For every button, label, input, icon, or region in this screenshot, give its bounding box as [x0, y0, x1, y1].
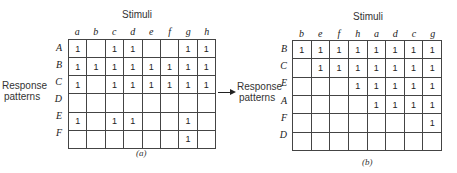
matrix-cell — [142, 130, 160, 148]
matrix-cell — [386, 132, 405, 150]
matrix-cell — [311, 114, 330, 132]
matrix-cell: 1 — [69, 40, 87, 58]
matrix-cell — [87, 40, 105, 58]
column-header-c: c — [405, 28, 423, 39]
matrix-cell — [330, 114, 349, 132]
column-header-a: a — [68, 26, 86, 37]
matrix-cell: 1 — [293, 41, 312, 59]
matrix-cell: 1 — [311, 59, 330, 77]
matrix-cell — [160, 112, 178, 130]
column-header-b: b — [292, 28, 310, 39]
matrix-cell — [348, 95, 367, 113]
matrix-cell — [386, 114, 405, 132]
column-header-f: f — [330, 28, 348, 39]
matrix-cell: 1 — [105, 76, 123, 94]
row-header-B: B — [52, 59, 62, 70]
matrix-cell: 1 — [105, 112, 123, 130]
matrix-cell: 1 — [386, 41, 405, 59]
column-header-e: e — [311, 28, 329, 39]
matrix-cell: 1 — [330, 59, 349, 77]
matrix-cell: 1 — [348, 59, 367, 77]
matrix-cell — [69, 130, 87, 148]
row-header-E: E — [52, 110, 62, 121]
caption-b: (b) — [362, 157, 373, 167]
matrix-cell: 1 — [367, 95, 386, 113]
matrix-cell: 1 — [124, 40, 142, 58]
matrix-cell: 1 — [386, 77, 405, 95]
matrix-cell: 1 — [142, 76, 160, 94]
matrix-cell — [330, 95, 349, 113]
matrix-cell: 1 — [423, 114, 442, 132]
matrix-cell: 1 — [404, 77, 423, 95]
matrix-cell: 1 — [348, 41, 367, 59]
matrix-cell — [293, 59, 312, 77]
matrix-cell: 1 — [197, 58, 215, 76]
matrix-row: 1 — [293, 114, 442, 132]
matrix-row: 11111111 — [293, 41, 442, 59]
matrix-cell: 1 — [386, 95, 405, 113]
response-label-line2: patterns — [237, 92, 282, 103]
matrix-cell — [124, 94, 142, 112]
matrix-cell: 1 — [124, 112, 142, 130]
matrix-cell: 1 — [160, 58, 178, 76]
matrix-cell — [330, 77, 349, 95]
stimuli-label-b: Stimuli — [353, 11, 383, 22]
matrix-cell — [293, 77, 312, 95]
matrix-cell — [404, 132, 423, 150]
matrix-cell: 1 — [348, 77, 367, 95]
row-header-C: C — [52, 76, 62, 87]
column-header-a: a — [367, 28, 385, 39]
matrix-row: 1111 — [293, 95, 442, 113]
matrix-cell: 1 — [179, 58, 197, 76]
matrix-cell: 1 — [124, 58, 142, 76]
matrix-cell — [160, 130, 178, 148]
matrix-cell — [160, 94, 178, 112]
matrix-cell: 1 — [142, 58, 160, 76]
matrix-cell: 1 — [197, 40, 215, 58]
matrix-row — [293, 132, 442, 150]
matrix-cell: 1 — [179, 112, 197, 130]
matrix-cell — [293, 95, 312, 113]
matrix-cell — [348, 132, 367, 150]
matrix-cell — [311, 132, 330, 150]
arrow-right-icon — [230, 89, 236, 95]
row-header-F: F — [277, 112, 287, 123]
matrix-cell — [330, 132, 349, 150]
matrix-cell — [142, 40, 160, 58]
column-header-g: g — [424, 28, 442, 39]
matrix-cell: 1 — [367, 77, 386, 95]
matrix-cell: 1 — [179, 40, 197, 58]
caption-a: (a) — [136, 148, 147, 158]
column-header-h: h — [198, 26, 216, 37]
matrix-row: 1111 — [69, 112, 216, 130]
column-header-d: d — [124, 26, 142, 37]
matrix-cell: 1 — [87, 58, 105, 76]
matrix-cell — [87, 94, 105, 112]
matrix-row: 1111111 — [293, 59, 442, 77]
row-header-F: F — [52, 127, 62, 138]
matrix-cell — [69, 94, 87, 112]
matrix-cell — [105, 94, 123, 112]
matrix-cell — [197, 130, 215, 148]
matrix-cell — [87, 130, 105, 148]
matrix-cell — [293, 132, 312, 150]
matrix-cell — [160, 40, 178, 58]
matrix-cell — [367, 132, 386, 150]
matrix-a: 1111111111111111111111111 — [68, 39, 216, 149]
column-header-e: e — [142, 26, 160, 37]
matrix-row: 11111111 — [69, 58, 216, 76]
matrix-cell: 1 — [311, 41, 330, 59]
matrix-cell — [423, 132, 442, 150]
column-header-f: f — [161, 26, 179, 37]
matrix-cell: 1 — [69, 76, 87, 94]
row-header-D: D — [52, 93, 62, 104]
response-label-line1: Response — [2, 80, 47, 91]
matrix-cell — [293, 114, 312, 132]
matrix-cell: 1 — [105, 58, 123, 76]
matrix-cell: 1 — [404, 41, 423, 59]
matrix-cell: 1 — [179, 76, 197, 94]
matrix-cell — [311, 77, 330, 95]
row-header-C: C — [277, 60, 287, 71]
matrix-cell: 1 — [386, 59, 405, 77]
matrix-cell — [367, 114, 386, 132]
